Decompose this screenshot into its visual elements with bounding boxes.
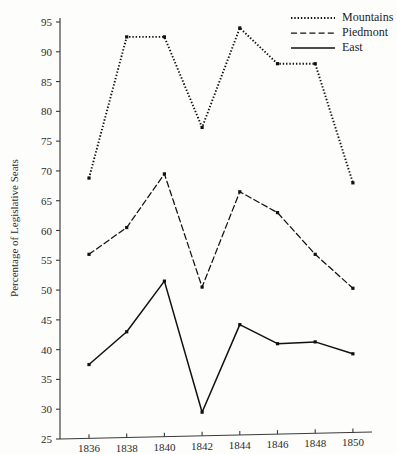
chart-legend: MountainsPiedmontEast (291, 10, 394, 54)
data-point-piedmont (163, 172, 166, 175)
y-tick-label: 80 (41, 105, 53, 117)
series-line-east (89, 281, 353, 412)
data-point-east (87, 363, 90, 366)
series-line-mountains (89, 28, 353, 183)
y-tick-label: 40 (41, 344, 53, 356)
y-tick-label: 95 (41, 16, 53, 28)
y-tick-label: 90 (41, 46, 53, 58)
legend-label-east: East (342, 40, 363, 54)
data-point-mountains (87, 176, 90, 179)
x-tick-label: 1836 (78, 442, 101, 454)
y-tick-label: 75 (41, 135, 53, 147)
y-tick-label: 25 (41, 433, 53, 445)
data-point-mountains (201, 126, 204, 129)
data-point-piedmont (201, 285, 204, 288)
y-tick-label: 65 (41, 195, 53, 207)
data-point-mountains (351, 181, 354, 184)
data-point-east (163, 280, 166, 283)
data-point-east (201, 411, 204, 414)
legend-label-piedmont: Piedmont (342, 25, 389, 39)
y-tick-label: 55 (41, 254, 53, 266)
y-axis-title: Percentage of Legislative Seats (8, 159, 20, 297)
data-point-east (125, 330, 128, 333)
legend-label-mountains: Mountains (342, 10, 394, 24)
data-point-piedmont (276, 211, 279, 214)
y-axis: 253035404550556065707580859095 (41, 16, 60, 445)
data-point-mountains (314, 62, 317, 65)
x-tick-label: 1844 (229, 439, 252, 451)
y-tick-label: 70 (41, 165, 53, 177)
data-point-east (276, 342, 279, 345)
y-tick-label: 85 (41, 76, 53, 88)
data-point-east (238, 323, 241, 326)
y-tick-label: 50 (41, 284, 53, 296)
y-tick-label: 30 (41, 403, 53, 415)
data-point-mountains (125, 35, 128, 38)
x-tick-label: 1850 (342, 436, 365, 448)
x-tick-label: 1840 (153, 441, 176, 453)
x-tick-label: 1846 (267, 438, 290, 450)
data-point-piedmont (87, 253, 90, 256)
data-point-piedmont (125, 226, 128, 229)
x-tick-label: 1838 (116, 442, 139, 454)
y-tick-label: 45 (41, 314, 53, 326)
y-tick-label: 60 (41, 225, 53, 237)
series-line-piedmont (89, 174, 353, 288)
data-point-mountains (163, 35, 166, 38)
x-tick-label: 1842 (191, 440, 213, 452)
y-tick-label: 35 (41, 373, 53, 385)
x-axis: 18361838184018421844184618481850 (60, 428, 372, 454)
data-point-mountains (238, 26, 241, 29)
data-point-mountains (276, 62, 279, 65)
data-point-piedmont (314, 253, 317, 256)
data-point-piedmont (238, 190, 241, 193)
data-point-east (314, 340, 317, 343)
line-chart: 253035404550556065707580859095 183618381… (0, 0, 397, 454)
data-point-piedmont (351, 287, 354, 290)
data-point-east (351, 352, 354, 355)
series-layer (87, 26, 354, 413)
chart-page: 253035404550556065707580859095 183618381… (0, 0, 397, 454)
x-tick-label: 1848 (304, 437, 327, 449)
